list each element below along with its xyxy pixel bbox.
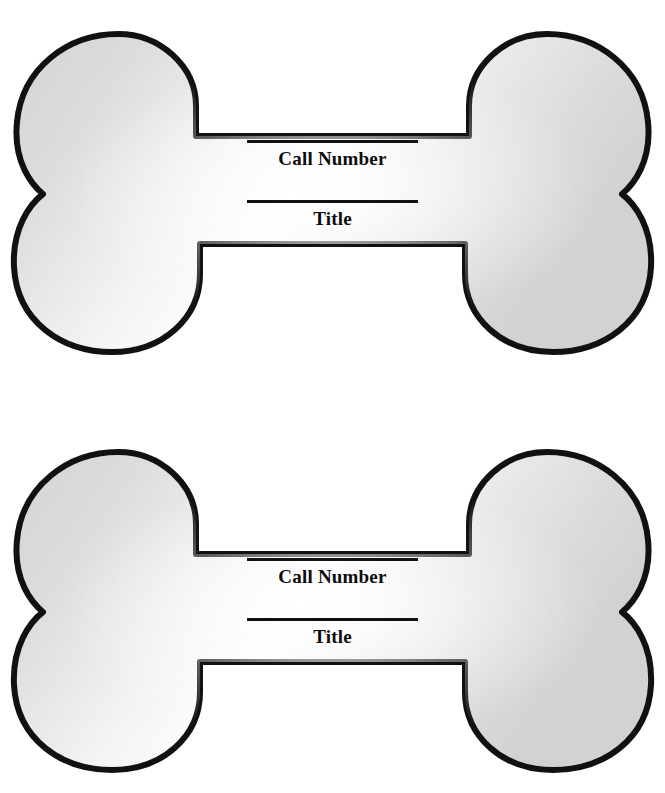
- bone-shape-2: [0, 440, 665, 778]
- bone-shape-1: [0, 22, 665, 360]
- bone-bookmark-1[interactable]: Call Number Title: [0, 22, 665, 360]
- printable-page: Book Mark: [0, 0, 665, 793]
- bone-bookmark-2[interactable]: Call Number Title: [0, 440, 665, 778]
